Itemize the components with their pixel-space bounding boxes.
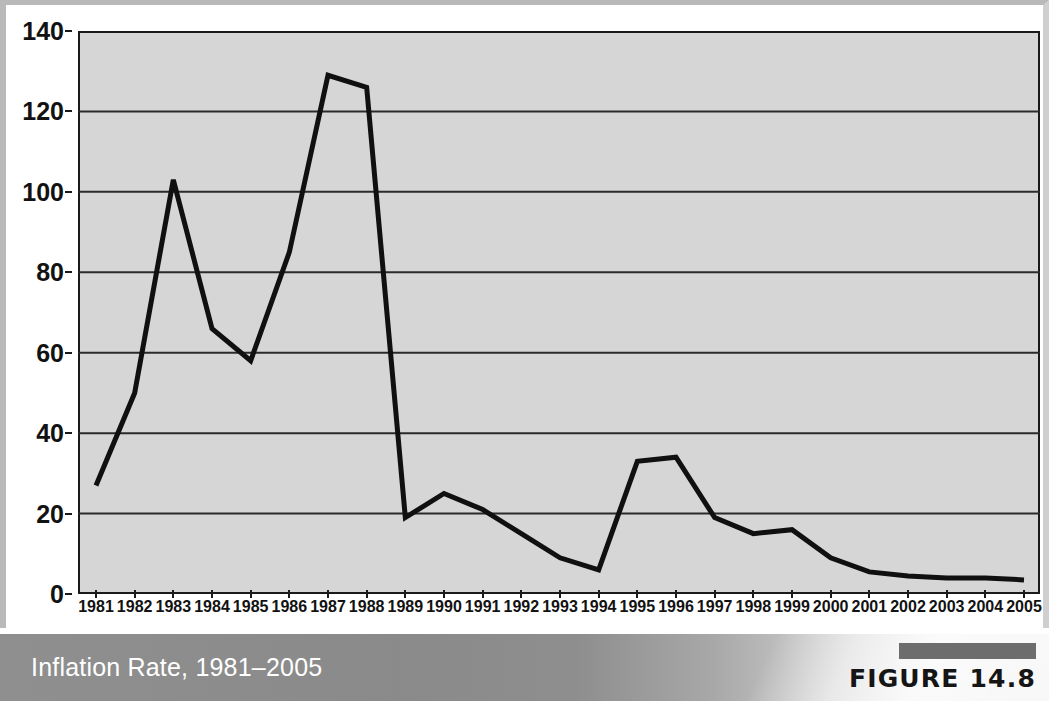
x-tick-mark (288, 590, 290, 598)
x-tick-mark (946, 590, 948, 598)
x-tick-label: 1982 (117, 598, 153, 616)
data-series-group (96, 75, 1024, 580)
chart-card: 020406080100120140 198119821983198419851… (0, 0, 1049, 628)
x-tick-mark (482, 590, 484, 598)
x-tick-mark (95, 590, 97, 598)
x-tick-mark (172, 590, 174, 598)
x-tick-mark (559, 590, 561, 598)
x-tick-label: 1990 (426, 598, 462, 616)
x-tick-label: 1992 (504, 598, 540, 616)
x-tick-label: 1995 (620, 598, 656, 616)
x-tick-mark (598, 590, 600, 598)
gridlines (78, 111, 1040, 513)
x-tick-mark (636, 590, 638, 598)
y-tick-mark (65, 271, 72, 273)
caption-band: Inflation Rate, 1981–2005 FIGURE 14.8 (0, 634, 1049, 701)
x-tick-label: 2003 (929, 598, 965, 616)
x-tick-label: 1984 (194, 598, 230, 616)
y-tick-label: 0 (50, 582, 64, 607)
x-tick-mark (443, 590, 445, 598)
y-tick-mark (65, 191, 72, 193)
x-tick-label: 1988 (349, 598, 385, 616)
y-tick-label: 20 (36, 501, 64, 526)
x-tick-label: 1991 (465, 598, 501, 616)
x-tick-mark (714, 590, 716, 598)
x-tick-mark (134, 590, 136, 598)
x-tick-label: 2004 (968, 598, 1004, 616)
x-tick-mark (791, 590, 793, 598)
x-tick-mark (366, 590, 368, 598)
y-axis: 020406080100120140 (6, 31, 72, 594)
x-axis: 1981198219831984198519861987198819891990… (78, 598, 1040, 628)
x-tick-mark (404, 590, 406, 598)
y-tick-mark (65, 110, 72, 112)
figure-number-label: FIGURE 14.8 (849, 664, 1036, 693)
y-tick-mark (65, 30, 72, 32)
x-tick-label: 1999 (774, 598, 810, 616)
y-tick-label: 100 (22, 179, 64, 204)
x-tick-label: 2005 (1006, 598, 1042, 616)
x-tick-label: 1989 (388, 598, 424, 616)
x-tick-mark (984, 590, 986, 598)
x-tick-mark (1023, 590, 1025, 598)
x-tick-label: 1996 (658, 598, 694, 616)
x-tick-label: 1998 (736, 598, 772, 616)
y-tick-label: 120 (22, 99, 64, 124)
x-tick-label: 1993 (542, 598, 578, 616)
x-tick-label: 1987 (310, 598, 346, 616)
x-tick-mark (907, 590, 909, 598)
x-tick-label: 1981 (78, 598, 114, 616)
x-tick-label: 2001 (852, 598, 888, 616)
y-tick-mark (65, 352, 72, 354)
x-tick-mark (675, 590, 677, 598)
x-tick-label: 2000 (813, 598, 849, 616)
x-tick-label: 1986 (272, 598, 308, 616)
y-tick-label: 140 (22, 19, 64, 44)
figure-tab-swatch (899, 643, 1036, 659)
y-tick-mark (65, 513, 72, 515)
data-line (96, 75, 1024, 580)
x-tick-label: 1985 (233, 598, 269, 616)
y-tick-label: 60 (36, 340, 64, 365)
x-tick-mark (868, 590, 870, 598)
figure-container: 020406080100120140 198119821983198419851… (0, 0, 1049, 701)
y-tick-label: 40 (36, 421, 64, 446)
caption-title: Inflation Rate, 1981–2005 (31, 653, 322, 682)
y-tick-mark (65, 593, 72, 595)
x-tick-mark (327, 590, 329, 598)
y-tick-mark (65, 432, 72, 434)
plot-wrapper (78, 31, 1040, 594)
x-tick-mark (752, 590, 754, 598)
x-tick-label: 1994 (581, 598, 617, 616)
line-chart-svg (78, 31, 1040, 594)
x-tick-label: 1983 (156, 598, 192, 616)
x-tick-mark (830, 590, 832, 598)
x-tick-mark (211, 590, 213, 598)
x-tick-label: 2002 (890, 598, 926, 616)
y-tick-label: 80 (36, 260, 64, 285)
x-tick-mark (250, 590, 252, 598)
x-tick-mark (520, 590, 522, 598)
x-tick-label: 1997 (697, 598, 733, 616)
